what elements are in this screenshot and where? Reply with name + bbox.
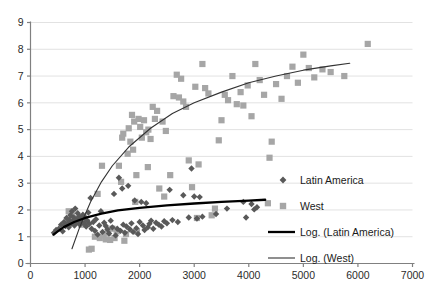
data-point-west [137,124,143,130]
data-point-west [199,61,205,67]
data-point-latin-america [180,192,186,198]
data-point-latin-america [143,200,149,206]
data-point-latin-america [119,185,125,191]
data-point-west [328,69,334,75]
data-point-latin-america [188,165,194,171]
x-tick-label: 1000 [73,269,97,281]
data-point-west [135,116,141,122]
y-tick-labels: 0123456789 [18,16,24,269]
data-point-latin-america [175,219,181,225]
data-point-west [161,193,167,199]
data-point-west [295,80,301,86]
data-point-west [222,92,228,98]
data-point-west [121,238,127,244]
data-point-west [202,85,208,91]
data-point-latin-america [199,213,205,219]
data-point-west [145,164,151,170]
data-point-west [261,92,267,98]
data-point-west [167,172,173,178]
data-point-west [311,74,317,80]
data-point-latin-america [166,187,172,193]
data-point-latin-america [128,220,134,226]
data-point-west [120,131,126,137]
x-tick-label: 4000 [237,269,261,281]
data-point-latin-america [108,217,114,223]
y-tick-label: 3 [18,177,24,189]
data-point-west [266,155,272,161]
data-point-west [186,157,192,163]
x-tick-label: 3000 [183,269,207,281]
data-point-west [365,41,371,47]
legend-label: Latin America [300,174,364,186]
y-tick-label: 8 [18,43,24,55]
data-point-latin-america [169,217,175,223]
data-point-latin-america [224,205,230,211]
x-tick-label: 5000 [292,269,316,281]
data-point-west [141,117,147,123]
x-tick-label: 7000 [401,269,425,281]
legend-label: West [300,200,324,212]
trendline-latin-america [53,200,265,235]
data-point-west [156,185,162,191]
data-point-west [240,102,246,108]
data-point-latin-america [138,199,144,205]
legend-marker-diamond [280,177,287,184]
chart-canvas: 0123456789 01000200030004000500060007000… [0,0,426,301]
data-point-west [170,93,176,99]
data-point-west [152,116,158,122]
data-point-west [273,81,279,87]
data-point-latin-america [191,193,197,199]
data-point-west [126,125,132,131]
data-point-latin-america [111,191,117,197]
data-point-latin-america [196,194,202,200]
data-point-west [129,112,135,118]
data-point-west [89,246,95,252]
data-point-west [234,101,240,107]
legend-marker-square [280,203,286,209]
gridlines [31,23,413,237]
data-point-west [225,97,231,103]
y-tick-label: 2 [18,204,24,216]
y-tick-label: 4 [18,150,24,162]
data-point-west [341,73,347,79]
data-point-west [265,200,271,206]
data-point-west [180,98,186,104]
legend-label: Log. (West) [300,252,354,264]
data-point-west [147,136,153,142]
data-point-latin-america [248,201,254,207]
data-point-latin-america [243,214,249,220]
data-point-west [154,108,160,114]
y-tick-label: 6 [18,97,24,109]
data-point-west [205,90,211,96]
data-point-west [229,73,235,79]
legend-label: Log. (Latin America) [300,226,394,238]
x-tick-label: 2000 [128,269,152,281]
y-tick-label: 5 [18,123,24,135]
y-tick-label: 1 [18,231,24,243]
data-point-west [195,161,201,167]
data-point-west [130,147,136,153]
data-point-west [278,96,284,102]
data-point-latin-america [186,214,192,220]
data-point-latin-america [150,225,156,231]
data-point-west [192,84,198,90]
data-point-west [163,128,169,134]
data-point-west [178,76,184,82]
scatter-chart: 0123456789 01000200030004000500060007000… [0,0,426,301]
y-tick-label: 9 [18,16,24,28]
data-point-west [116,163,122,169]
data-point-west [133,172,139,178]
data-point-west [99,163,105,169]
data-point-west [216,137,222,143]
trendline-latin-america-path [53,200,265,235]
data-point-west [212,206,218,212]
data-point-west [238,89,244,95]
x-tick-labels: 01000200030004000500060007000 [28,269,425,281]
data-point-west [248,113,254,119]
data-point-west [300,52,306,58]
data-point-west [189,184,195,190]
data-point-west [269,139,275,145]
data-point-west [252,61,258,67]
data-point-west [218,117,224,123]
y-tick-label: 0 [18,257,24,269]
